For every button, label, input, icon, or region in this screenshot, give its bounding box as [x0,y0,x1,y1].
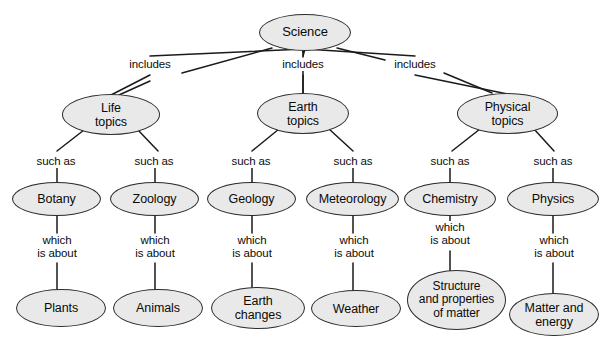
node-label-zoology: Zoology [129,192,181,206]
node-earth[interactable]: Earth topics [257,93,349,134]
edge-lower-inc-life [111,75,150,95]
edge-segment-l-phys-phy [534,129,554,151]
edge-label-sa-zoology: such as [128,155,180,168]
edge-label-text-inc-life: includes [121,58,179,71]
node-label-matter: Matter and energy [521,301,588,329]
node-label-animals: Animals [132,301,184,315]
edge-label-inc-life: includes [121,58,179,71]
node-label-meteorology: Meteorology [315,192,391,206]
edge-label-text-wa-struct: which is about [424,221,476,247]
edge-label-wa-plants: which is about [31,234,83,260]
edge-label-sa-botany: such as [30,155,82,168]
edge-label-text-sa-botany: such as [30,155,82,168]
edge-label-wa-struct: which is about [424,221,476,247]
edge-label-text-sa-geology: such as [225,155,277,168]
edge-segment-l-life-zoo [138,130,158,151]
node-chemistry[interactable]: Chemistry [404,182,496,216]
edge-segment-l-earth-geo [252,129,279,151]
edge-segment-l-life-bot [57,130,84,151]
edge-label-text-sa-meteor: such as [327,155,379,168]
edge-upper-inc-life [150,49,305,56]
edge-label-text-wa-plants: which is about [31,234,83,260]
edge-label-text-inc-earth: includes [274,58,332,71]
node-label-earth: Earth topics [283,100,323,128]
edge-label-sa-phys: such as [527,155,579,168]
node-botany[interactable]: Botany [12,182,101,216]
node-label-life: Life topics [91,101,131,129]
node-weather[interactable]: Weather [311,290,401,327]
node-label-chemistry: Chemistry [418,192,481,206]
edge-label-inc-earth: includes [274,58,332,71]
node-animals[interactable]: Animals [113,289,203,327]
edge-lower-inc-phys [415,75,508,94]
edge-label-text-sa-zoology: such as [128,155,180,168]
node-zoology[interactable]: Zoology [110,182,199,216]
node-plants[interactable]: Plants [16,289,106,327]
edge-label-wa-earth: which is about [226,234,278,260]
edge-label-sa-chem: such as [424,155,476,168]
node-geology[interactable]: Geology [207,182,296,216]
edge-label-text-inc-phys: includes [386,58,444,71]
node-label-science: Science [278,25,332,40]
node-physical[interactable]: Physical topics [457,93,558,134]
edge-upper-inc-phys [305,49,415,56]
node-earthchg[interactable]: Earth changes [211,287,305,329]
edge-segment-l-earth-met [329,129,353,151]
edge-label-wa-matter: which is about [528,234,580,260]
edge-segment-l-phys-chem [452,129,480,151]
edge-label-text-wa-matter: which is about [528,234,580,260]
node-label-structure: Structure and properties of matter [415,280,498,320]
edge-label-text-sa-phys: such as [527,155,579,168]
edge-label-wa-animals: which is about [129,234,181,260]
node-label-earthchg: Earth changes [231,294,286,322]
node-label-plants: Plants [40,301,82,315]
concept-map-canvas: ScienceLife topicsEarth topicsPhysical t… [0,0,610,346]
node-meteorology[interactable]: Meteorology [306,182,399,216]
node-label-physics: Physics [528,192,578,206]
edge-label-sa-geology: such as [225,155,277,168]
node-label-geology: Geology [225,192,279,206]
edge-label-text-wa-earth: which is about [226,234,278,260]
edge-label-text-wa-weather: which is about [328,234,380,260]
edge-label-text-wa-animals: which is about [129,234,181,260]
node-life[interactable]: Life topics [62,94,160,135]
edge-label-wa-weather: which is about [328,234,380,260]
node-label-botany: Botany [33,192,79,206]
edge-label-sa-meteor: such as [327,155,379,168]
node-label-physical: Physical topics [481,100,535,128]
edge-label-text-sa-chem: such as [424,155,476,168]
node-label-weather: Weather [329,302,383,316]
node-physics[interactable]: Physics [507,182,599,216]
node-science[interactable]: Science [259,14,351,51]
node-matter[interactable]: Matter and energy [509,293,599,336]
node-structure[interactable]: Structure and properties of matter [407,270,506,330]
edge-label-inc-phys: includes [386,58,444,71]
